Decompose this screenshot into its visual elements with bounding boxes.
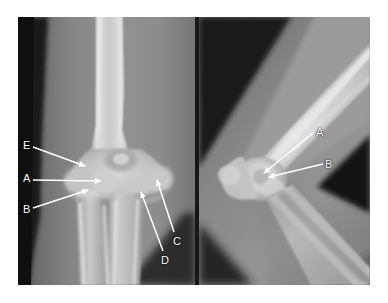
ap-radiograph-image	[18, 17, 195, 285]
lateral-elbow-radiograph	[199, 17, 370, 285]
lateral-radiograph-image	[199, 17, 370, 285]
radiograph-figure: E A B C D A B	[0, 0, 388, 303]
anteroposterior-elbow-radiograph	[18, 17, 195, 285]
